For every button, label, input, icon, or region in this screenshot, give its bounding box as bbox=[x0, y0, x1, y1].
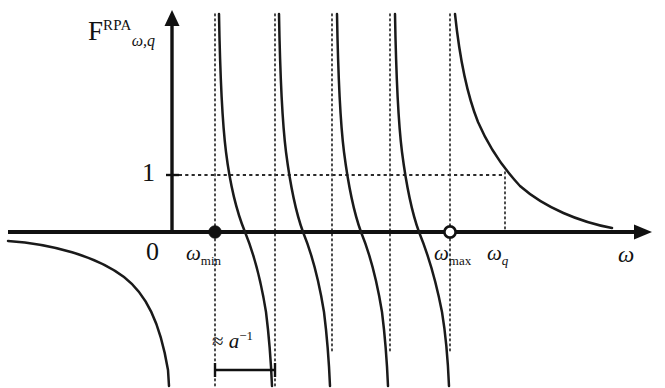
y-axis-label-subscript: ω,q bbox=[132, 32, 155, 49]
x-axis-label: ω bbox=[618, 243, 634, 266]
curve-branch-2 bbox=[279, 14, 330, 386]
marker-omega-max bbox=[444, 226, 455, 237]
omega-q-symbol: ω bbox=[487, 241, 502, 265]
y-axis-label-base: F bbox=[88, 16, 103, 46]
spacing-annotation: ≈ a−1 bbox=[212, 329, 253, 352]
asymptote-guides bbox=[215, 14, 505, 386]
omega-min-subscript: min bbox=[201, 253, 221, 268]
origin-label: 0 bbox=[146, 239, 159, 265]
figure-canvas: FRPAω,q 1 0 ωmin ωmax ωq ω ≈ a−1 bbox=[0, 0, 665, 388]
y-tick-label-one: 1 bbox=[142, 160, 155, 186]
y-axis-label: FRPAω,q bbox=[88, 18, 155, 49]
curve-branch-3 bbox=[337, 14, 388, 386]
curve-right-tail bbox=[455, 14, 612, 228]
curve-branch-4 bbox=[395, 14, 449, 386]
plot-svg bbox=[0, 0, 665, 388]
curve-branches bbox=[8, 14, 612, 386]
curve-left-tail bbox=[8, 241, 169, 386]
omega-min-symbol: ω bbox=[186, 241, 201, 265]
marker-omega-min bbox=[209, 226, 221, 238]
y-axis-label-superscript: RPA bbox=[103, 17, 132, 33]
spacing-exponent: −1 bbox=[239, 328, 253, 343]
omega-max-symbol: ω bbox=[434, 241, 449, 265]
omega-max-subscript: max bbox=[449, 253, 471, 268]
omega-max-label: ωmax bbox=[434, 243, 471, 267]
omega-q-label: ωq bbox=[487, 243, 508, 267]
x-axis-arrowhead bbox=[634, 225, 652, 240]
omega-q-subscript: q bbox=[502, 253, 509, 268]
y-axis-arrowhead bbox=[165, 10, 180, 26]
omega-min-label: ωmin bbox=[186, 243, 221, 267]
spacing-symbol: a bbox=[229, 329, 240, 353]
spacing-measure-bar bbox=[215, 363, 275, 377]
spacing-approx-sign: ≈ bbox=[212, 329, 224, 353]
